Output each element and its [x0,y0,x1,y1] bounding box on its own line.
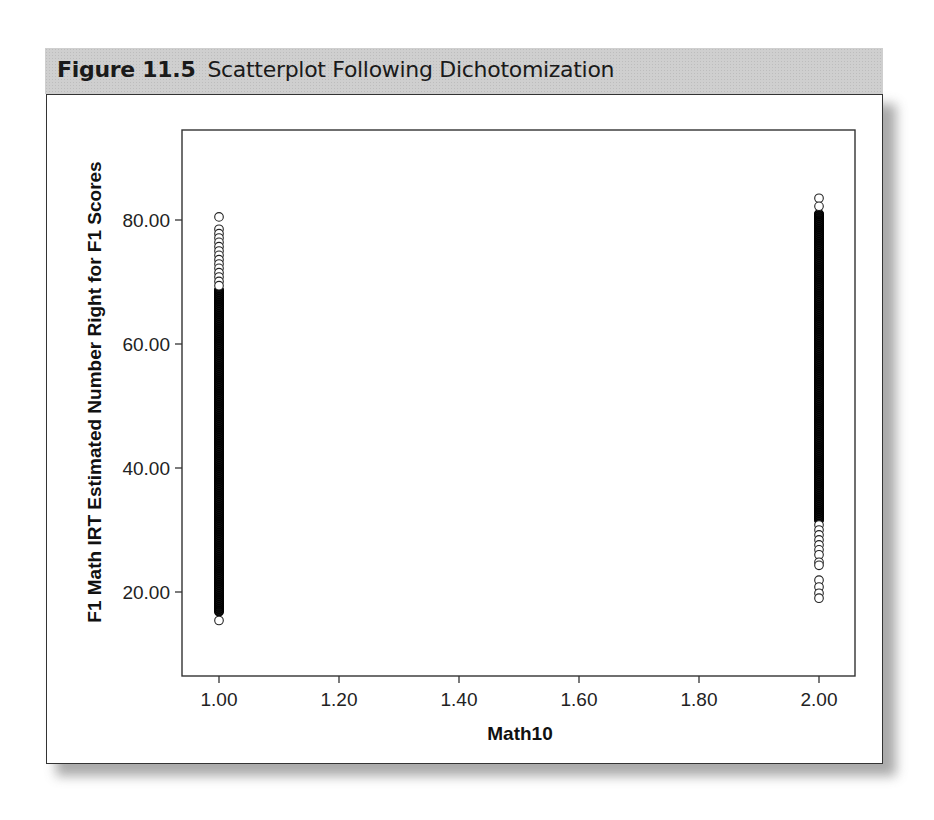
x-tick-label: 1.00 [201,689,238,710]
y-axis-title: F1 Math IRT Estimated Number Right for F… [84,161,105,622]
scatter-chart: 20.0040.0060.0080.00 1.001.201.401.601.8… [0,0,934,820]
x-tick-label: 1.60 [561,689,598,710]
x-axis: 1.001.201.401.601.802.00 [201,676,838,710]
data-point [815,194,824,203]
series-column [214,213,224,625]
x-tick-label: 1.40 [441,689,478,710]
y-tick-label: 20.00 [122,582,170,603]
data-point [215,213,224,222]
plot-area-border [182,130,855,676]
data-points [214,194,824,625]
x-tick-label: 2.00 [801,689,838,710]
data-point [215,281,224,290]
y-tick-label: 80.00 [122,210,170,231]
data-point [815,561,824,570]
y-axis: 20.0040.0060.0080.00 [122,210,182,603]
data-point [215,616,224,625]
data-point [815,594,824,603]
series-column [814,194,824,603]
data-point [815,202,824,211]
x-tick-label: 1.20 [321,689,358,710]
y-tick-label: 60.00 [122,334,170,355]
x-tick-label: 1.80 [681,689,718,710]
y-tick-label: 40.00 [122,458,170,479]
x-axis-title: Math10 [487,723,552,744]
